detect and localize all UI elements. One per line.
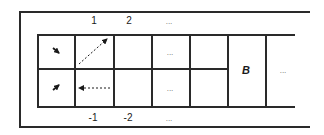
arrow-up-right-icon: [53, 85, 59, 90]
dashed-arrow-up-right-icon: [79, 39, 107, 64]
arrow-down-right-icon: [53, 48, 59, 53]
arrows-layer: [0, 0, 324, 135]
